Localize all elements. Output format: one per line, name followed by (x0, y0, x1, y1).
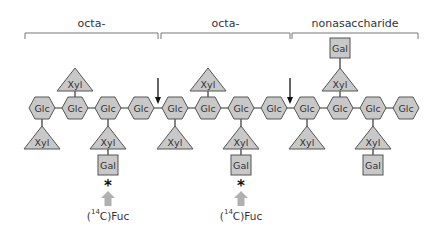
residue-label: Glc (365, 103, 380, 114)
gal-residue-lower: Gal (98, 155, 118, 175)
residue-label: Glc (398, 103, 413, 114)
xyl-residue-upper: Xyl (190, 68, 226, 91)
residue-label: Glc (233, 103, 248, 114)
cleavage-arrow-icon (155, 78, 161, 104)
gal-residue-lower: Gal (231, 155, 251, 175)
residue-label: Glc (266, 103, 281, 114)
residue-label: Gal (233, 160, 249, 171)
bracket-0: octa- (25, 17, 158, 40)
residue-label: Glc (67, 103, 82, 114)
glc-residue: Glc (294, 97, 320, 119)
residue-label: Gal (332, 43, 348, 54)
glc-residue: Glc (195, 97, 221, 119)
xyl-residue-lower: Xyl (355, 126, 391, 149)
residue-label: Glc (200, 103, 215, 114)
residue-label: Glc (133, 103, 148, 114)
glc-residue: Glc (29, 97, 55, 119)
glc-residue: Glc (162, 97, 188, 119)
glc-residue: Glc (95, 97, 121, 119)
residue-label: Glc (167, 103, 182, 114)
bracket-2: nonasaccharide (292, 17, 418, 40)
residue-label: Gal (365, 160, 381, 171)
bracket-1: octa- (161, 17, 290, 40)
xyl-residue-lower: Xyl (24, 126, 60, 149)
fucose-label: (14C)Fuc (87, 208, 130, 222)
residue-label: Xyl (35, 137, 50, 148)
residue-label: Xyl (300, 137, 315, 148)
residue-label: Glc (332, 103, 347, 114)
xyl-residue-lower: Xyl (90, 126, 126, 149)
xyl-residue-lower: Xyl (289, 126, 325, 149)
xyl-residue-lower: Xyl (157, 126, 193, 149)
residue-label: Xyl (101, 137, 116, 148)
bracket-label: octa- (212, 17, 240, 30)
fucosylation-site: *(14C)Fuc (87, 177, 130, 222)
fucosylation-site: *(14C)Fuc (220, 177, 263, 222)
glc-residue: Glc (327, 97, 353, 119)
residue-label: Glc (34, 103, 49, 114)
xyl-residue-upper: Xyl (322, 68, 358, 91)
residue-label: Xyl (366, 137, 381, 148)
bracket-label: octa- (78, 17, 106, 30)
fucose-label: (14C)Fuc (220, 208, 263, 222)
residue-label: Gal (100, 160, 116, 171)
glc-residue: Glc (261, 97, 287, 119)
xyl-residue-lower: Xyl (223, 126, 259, 149)
glc-residue: Glc (360, 97, 386, 119)
residue-label: Xyl (234, 137, 249, 148)
glc-residue: Glc (393, 97, 419, 119)
xyl-residue-upper: Xyl (57, 68, 93, 91)
glc-residue: Glc (62, 97, 88, 119)
bracket-label: nonasaccharide (311, 17, 398, 30)
residue-label: Xyl (168, 137, 183, 148)
residue-label: Xyl (333, 79, 348, 90)
residue-label: Xyl (201, 79, 216, 90)
glc-residue: Glc (228, 97, 254, 119)
residue-label: Glc (299, 103, 314, 114)
xyloglucan-structure-diagram: octa-octa-nonasaccharideXylXylXylGalXylX… (0, 0, 443, 228)
glc-residue: Glc (128, 97, 154, 119)
cleavage-arrow-icon (287, 78, 293, 104)
residue-label: Glc (100, 103, 115, 114)
residue-label: Xyl (68, 79, 83, 90)
gal-residue-upper: Gal (330, 38, 350, 58)
gal-residue-lower: Gal (363, 155, 383, 175)
